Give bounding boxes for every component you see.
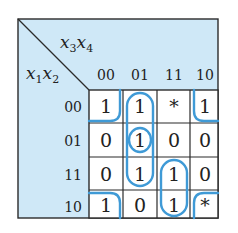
column-header: 10	[196, 67, 214, 83]
row-header: 01	[64, 133, 82, 149]
row-header: 10	[64, 199, 82, 215]
cell: 1	[100, 95, 112, 117]
column-header: 00	[97, 67, 115, 83]
row-header: 00	[64, 99, 82, 115]
cell: 1	[168, 194, 180, 216]
row-header: 11	[64, 167, 82, 183]
cell: *	[169, 95, 179, 117]
cell: 0	[100, 129, 112, 151]
cell: 0	[100, 163, 112, 185]
cell: 1	[134, 163, 146, 185]
cell: *	[200, 194, 210, 216]
cell: 1	[199, 95, 211, 117]
cell: 1	[134, 129, 146, 151]
cell: 0	[168, 129, 180, 151]
cell: 0	[134, 194, 146, 216]
column-header: 01	[131, 67, 149, 83]
cell: 0	[199, 129, 211, 151]
karnaugh-map: x3x4 x1x2 00 01 11 10 00 01 11 10 1 1 * …	[0, 0, 238, 233]
column-header: 11	[165, 67, 183, 83]
cell: 1	[168, 163, 180, 185]
cell: 0	[199, 163, 211, 185]
cell: 1	[134, 95, 146, 117]
cell: 1	[100, 194, 112, 216]
